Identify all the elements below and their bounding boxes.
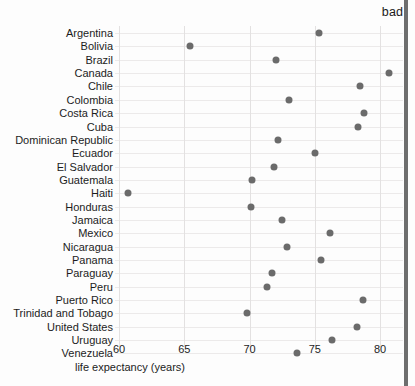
gridline-row (115, 100, 403, 101)
data-point[interactable] (293, 350, 300, 357)
data-point[interactable] (285, 96, 292, 103)
gridline-row (115, 273, 403, 274)
category-label: Honduras (65, 201, 113, 212)
category-label: Chile (88, 81, 113, 92)
gridline-column (380, 26, 381, 347)
category-label: Paraguay (66, 268, 113, 279)
category-label: Nicaragua (63, 241, 113, 252)
category-label: Dominican Republic (15, 134, 113, 145)
gridline-row (115, 207, 403, 208)
data-point[interactable] (249, 176, 256, 183)
data-point[interactable] (186, 43, 193, 50)
gridline-row (115, 353, 403, 354)
data-point[interactable] (268, 270, 275, 277)
category-label: Costa Rica (59, 108, 113, 119)
data-point[interactable] (247, 203, 254, 210)
data-point[interactable] (284, 243, 291, 250)
data-point[interactable] (315, 30, 322, 37)
data-point[interactable] (279, 216, 286, 223)
data-point[interactable] (327, 230, 334, 237)
category-label: Puerto Rico (56, 295, 113, 306)
category-label: Uruguay (71, 335, 113, 346)
data-point[interactable] (318, 256, 325, 263)
gridline-row (115, 247, 403, 248)
category-label: El Salvador (57, 161, 113, 172)
category-label: Argentina (66, 28, 113, 39)
x-tick-label: 60 (113, 343, 125, 355)
gridline-row (115, 193, 403, 194)
gridline-row (115, 153, 403, 154)
category-label: Cuba (87, 121, 113, 132)
data-point[interactable] (271, 163, 278, 170)
gridline-row (115, 60, 403, 61)
gridline-row (115, 167, 403, 168)
category-label: Brazil (85, 54, 113, 65)
x-tick-label: 75 (309, 343, 321, 355)
bad-annotation-label: bad (382, 5, 403, 19)
x-tick-label: 65 (178, 343, 190, 355)
data-point[interactable] (360, 297, 367, 304)
data-point[interactable] (125, 190, 132, 197)
category-label: United States (47, 321, 113, 332)
data-point[interactable] (361, 110, 368, 117)
data-point[interactable] (243, 310, 250, 317)
gridline-row (115, 73, 403, 74)
category-label: Guatemala (59, 174, 113, 185)
gridline-row (115, 260, 403, 261)
gridline-column (250, 26, 251, 347)
gridline-column (315, 26, 316, 347)
data-point[interactable] (357, 83, 364, 90)
data-point[interactable] (275, 136, 282, 143)
data-point[interactable] (311, 150, 318, 157)
right-edge-bar (404, 0, 408, 386)
gridline-row (115, 180, 403, 181)
category-label: Haiti (91, 188, 113, 199)
gridline-row (115, 140, 403, 141)
gridline-row (115, 287, 403, 288)
category-label: Mexico (78, 228, 113, 239)
data-point[interactable] (386, 70, 393, 77)
data-point[interactable] (263, 283, 270, 290)
x-axis-title-text: life expectancy (years) (75, 361, 185, 373)
category-label: Canada (74, 68, 113, 79)
category-label: Jamaica (72, 214, 113, 225)
gridline-row (115, 340, 403, 341)
data-point[interactable] (328, 337, 335, 344)
gridline-row (115, 233, 403, 234)
category-label: Peru (90, 281, 113, 292)
gridline-column (119, 26, 120, 347)
plot-area: ArgentinaBoliviaBrazilCanadaChileColombi… (0, 0, 415, 386)
category-label: Colombia (67, 94, 113, 105)
data-point[interactable] (354, 123, 361, 130)
x-tick-label: 80 (374, 343, 386, 355)
category-label: Ecuador (72, 148, 113, 159)
data-point[interactable] (353, 323, 360, 330)
category-label: Venezuela (62, 348, 113, 359)
life-expectancy-dot-chart: ArgentinaBoliviaBrazilCanadaChileColombi… (0, 0, 415, 386)
x-tick-label: 70 (243, 343, 255, 355)
category-label: Panama (72, 254, 113, 265)
category-label: Trinidad and Tobago (13, 308, 113, 319)
gridline-row (115, 33, 403, 34)
gridline-row (115, 46, 403, 47)
gridline-column (184, 26, 185, 347)
gridline-row (115, 313, 403, 314)
x-axis-title: life expectancy (years) (0, 361, 415, 373)
gridline-row (115, 113, 403, 114)
category-label: Bolivia (81, 41, 113, 52)
data-point[interactable] (272, 56, 279, 63)
gridline-row (115, 220, 403, 221)
